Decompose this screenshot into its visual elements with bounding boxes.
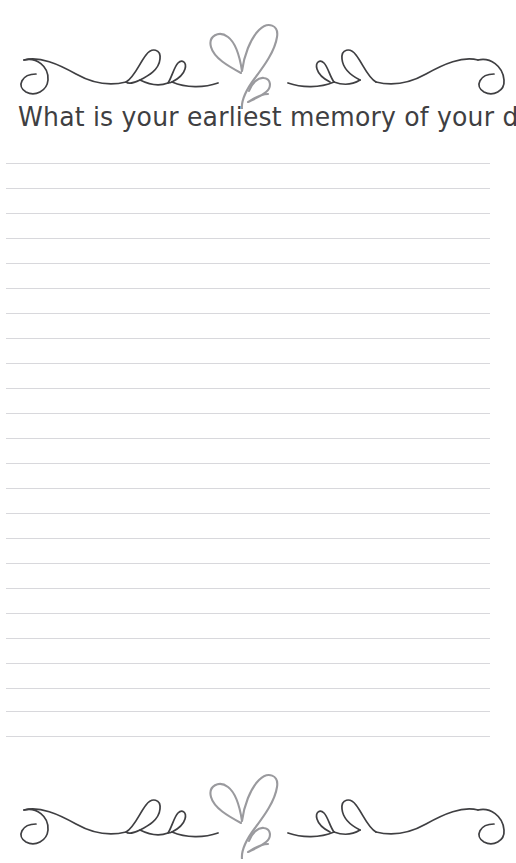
page-title: What is your earliest memory of your dad… [18, 100, 498, 134]
heart-icon [210, 775, 277, 859]
writing-line [6, 338, 490, 339]
writing-line [6, 563, 490, 564]
writing-line [6, 313, 490, 314]
bottom-heart-flourish-ornament [0, 764, 516, 859]
writing-line [6, 413, 490, 414]
writing-line [6, 188, 490, 189]
writing-line [6, 688, 490, 689]
writing-line [6, 263, 490, 264]
writing-line [6, 438, 490, 439]
writing-line [6, 213, 490, 214]
writing-line [6, 613, 490, 614]
journal-prompt-page: What is your earliest memory of your dad… [0, 0, 516, 863]
writing-line [6, 388, 490, 389]
writing-line [6, 363, 490, 364]
writing-line [6, 538, 490, 539]
writing-line [6, 288, 490, 289]
writing-line [6, 638, 490, 639]
writing-line [6, 488, 490, 489]
writing-line [6, 736, 490, 737]
writing-line [6, 463, 490, 464]
writing-line [6, 163, 490, 164]
writing-line [6, 513, 490, 514]
writing-line [6, 711, 490, 712]
writing-line [6, 663, 490, 664]
writing-line [6, 588, 490, 589]
heart-icon [210, 25, 277, 109]
writing-line [6, 238, 490, 239]
top-heart-flourish-ornament [0, 14, 516, 109]
